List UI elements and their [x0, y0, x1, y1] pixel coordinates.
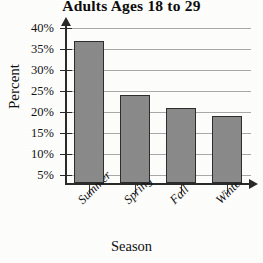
y-axis-tick-label-wrap: 35% — [18, 43, 54, 55]
y-axis-tick-label: 5% — [18, 169, 54, 182]
bar — [166, 108, 196, 183]
y-axis-tick-label-wrap: 15% — [18, 127, 54, 139]
y-axis-tick-label: 30% — [18, 64, 54, 77]
y-axis-tick-label-wrap: 25% — [18, 85, 54, 97]
y-axis-tick-mark — [60, 154, 72, 156]
x-axis-category-label: Fall — [167, 182, 192, 207]
gridline — [66, 28, 251, 29]
y-axis-tick-label: 40% — [18, 22, 54, 35]
x-axis-title: Season — [0, 238, 263, 255]
y-axis-tick-mark — [60, 91, 72, 93]
y-axis-tick-mark — [60, 28, 72, 30]
y-axis-tick-mark — [60, 112, 72, 114]
x-axis-arrow-icon — [249, 179, 258, 189]
y-axis-tick-label-wrap: 20% — [18, 106, 54, 118]
y-axis-tick-mark — [60, 49, 72, 51]
y-axis-tick-label-wrap: 30% — [18, 64, 54, 76]
bar-chart: Adults Ages 18 to 29 Percent 40%35%30%25… — [0, 0, 263, 263]
y-axis-tick-mark — [60, 175, 72, 177]
y-axis-tick-label-wrap: 5% — [18, 169, 54, 181]
y-axis-tick-label-wrap: 40% — [18, 22, 54, 34]
y-axis-tick-label: 35% — [18, 43, 54, 56]
bar — [120, 95, 150, 183]
y-axis-tick-mark — [60, 133, 72, 135]
plot-area: 40%35%30%25%20%15%10%5% SummerSpringFall… — [0, 0, 263, 263]
y-axis-tick-label: 15% — [18, 127, 54, 140]
bar — [212, 116, 242, 183]
bar — [74, 41, 104, 183]
y-axis-tick-label-wrap: 10% — [18, 148, 54, 160]
y-axis-tick-label: 20% — [18, 106, 54, 119]
y-axis-tick-label: 10% — [18, 148, 54, 161]
y-axis-tick-mark — [60, 70, 72, 72]
y-axis-tick-label: 25% — [18, 85, 54, 98]
